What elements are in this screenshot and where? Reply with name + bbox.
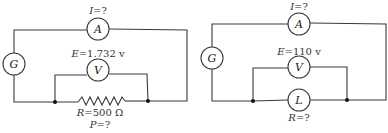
right-circuit: G A I=? V E=110 v L R=? [201, 1, 386, 123]
right-outer-wire-right [310, 23, 386, 100]
voltage-label: E=1.732 v [70, 48, 124, 59]
resistor-icon [78, 97, 125, 105]
left-circuit: G A I=? V E=1.732 v R=500 Ω P=? [3, 5, 187, 130]
voltage-value: =110 v [285, 46, 322, 57]
circuit-diagrams: G A I=? V E=1.732 v R=500 Ω P=? [0, 0, 388, 133]
voltmeter-symbol: V [295, 61, 304, 74]
voltage-label: E=110 v [276, 46, 321, 57]
junction-dot [345, 98, 349, 102]
current-value: =? [294, 1, 308, 12]
junction-dot [251, 99, 255, 103]
ammeter-symbol: A [294, 18, 303, 31]
junction-dot [53, 100, 57, 104]
right-voltmeter-wire-left [253, 68, 288, 101]
resistance-value: =? [296, 112, 310, 123]
resistance-value: =500 Ω [84, 107, 123, 118]
voltmeter-symbol: V [94, 64, 103, 77]
resistance-label: R=? [287, 112, 309, 123]
right-outer-wire-bottom-left [212, 69, 288, 101]
resistance-label: R=500 Ω [76, 107, 123, 118]
current-value: =? [93, 5, 107, 16]
generator-symbol: G [208, 52, 217, 65]
left-voltmeter-wire-right [109, 74, 148, 101]
junction-dot [146, 99, 150, 103]
right-outer-wire-top [212, 24, 288, 47]
current-label: I=? [88, 5, 107, 16]
right-voltmeter-wire-right [310, 67, 347, 100]
power-value: =? [96, 119, 110, 130]
lamp-symbol: L [294, 94, 302, 107]
voltage-value: =1.732 v [79, 48, 125, 59]
generator-symbol: G [10, 58, 19, 71]
left-outer-wire-bottom-left [14, 75, 78, 102]
ammeter-symbol: A [93, 23, 102, 36]
power-label: P=? [89, 119, 110, 130]
current-label: I=? [289, 1, 308, 12]
